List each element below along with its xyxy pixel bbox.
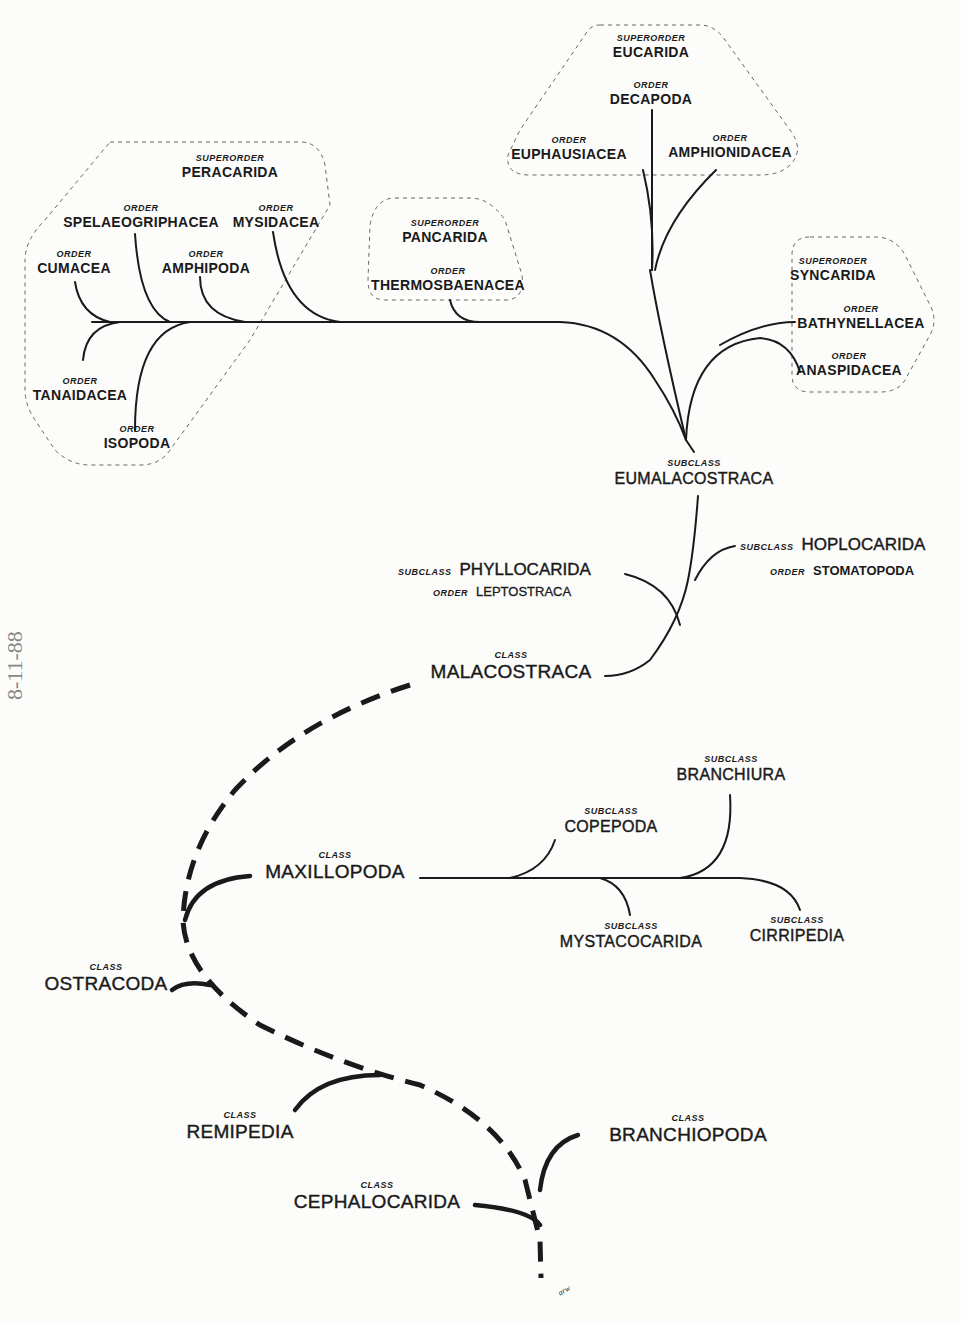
order-leptostraca: ORDERLEPTOSTRACA: [433, 582, 571, 600]
subclass-hoplocarida: SUBCLASSHOPLOCARIDA: [740, 535, 925, 555]
margin-handwritten-note: 8-11-88: [2, 631, 28, 700]
subclass-branchiura: SUBCLASS BRANCHIURA: [677, 754, 786, 784]
order-decapoda: ORDER DECAPODA: [610, 80, 693, 107]
order-amphipoda: ORDER AMPHIPODA: [162, 249, 250, 276]
order-bathynellacea: ORDER BATHYNELLACEA: [797, 304, 924, 331]
order-euphausiacea: ORDER EUPHAUSIACEA: [511, 135, 627, 162]
superorder-syncarida: SUPERORDER SYNCARIDA: [790, 256, 876, 283]
order-anaspidacea: ORDER ANASPIDACEA: [796, 351, 902, 378]
subclass-eumalacostraca: SUBCLASS EUMALACOSTRACA: [615, 458, 774, 488]
order-cumacea: ORDER CUMACEA: [37, 249, 111, 276]
class-ostracoda: CLASS OSTRACODA: [44, 962, 167, 995]
superorder-peracarida: SUPERORDER PERACARIDA: [182, 153, 278, 180]
superorder-eucarida: SUPERORDER EUCARIDA: [613, 33, 689, 60]
base-branches: [172, 876, 578, 1225]
class-remipedia: CLASS REMIPEDIA: [186, 1110, 293, 1143]
order-amphionidacea: ORDER AMPHIONIDACEA: [668, 133, 792, 160]
order-isopoda: ORDER ISOPODA: [104, 424, 171, 451]
subclass-copepoda: SUBCLASS COPEPODA: [564, 806, 657, 836]
class-maxillopoda: CLASS MAXILLOPODA: [265, 850, 405, 883]
subclass-phyllocarida: SUBCLASSPHYLLOCARIDA: [398, 560, 591, 580]
superorder-boundaries: [25, 25, 934, 465]
peracarida-boundary: [25, 142, 330, 465]
order-thermosbaenacea: ORDER THERMOSBAENACEA: [371, 266, 525, 293]
order-spelaeogriphacea: ORDER SPELAEOGRIPHACEA: [63, 203, 219, 230]
class-malacostraca: CLASS MALACOSTRACA: [431, 650, 592, 683]
order-tanaidacea: ORDER TANAIDACEA: [33, 376, 128, 403]
order-stomatopoda: ORDERSTOMATOPODA: [770, 561, 914, 579]
class-cephalocarida: CLASS CEPHALOCARIDA: [294, 1180, 461, 1213]
superorder-pancarida: SUPERORDER PANCARIDA: [402, 218, 488, 245]
crustacea-phylogeny-diagram: SUPERORDER PERACARIDA ORDER SPELAEOGRIPH…: [0, 0, 961, 1324]
subclass-cirripedia: SUBCLASS CIRRIPEDIA: [750, 915, 845, 945]
subclass-mystacocarida: SUBCLASS MYSTACOCARIDA: [560, 921, 702, 951]
class-branchiopoda: CLASS BRANCHIOPODA: [609, 1113, 767, 1146]
order-mysidacea: ORDER MYSIDACEA: [233, 203, 320, 230]
